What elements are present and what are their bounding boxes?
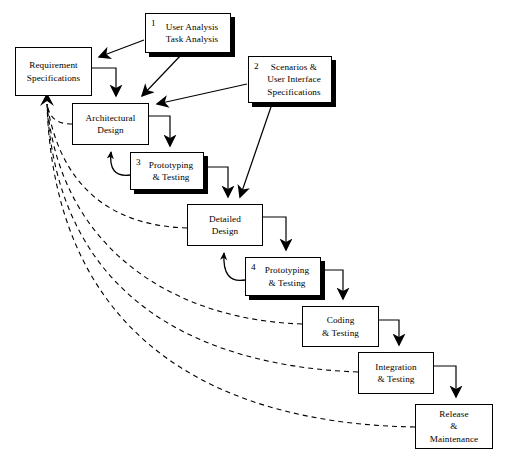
diagram-canvas: 1User Analysis Task AnalysisRequirement … xyxy=(0,0,505,462)
node-label-prototyping-testing-3: Prototyping & Testing xyxy=(137,159,198,184)
node-integration-testing[interactable]: Integration & Testing xyxy=(358,352,434,394)
node-prototyping-testing-3[interactable]: 3Prototyping & Testing xyxy=(130,152,204,190)
edge-user-analysis-to-architectural-design xyxy=(142,54,182,96)
node-label-release-maintenance: Release & Maintenance xyxy=(426,408,483,446)
node-number-scenarios-ui-specifications: 2 xyxy=(254,61,259,72)
edge-scenarios-to-architectural-design xyxy=(157,84,247,104)
node-label-user-analysis: User Analysis Task Analysis xyxy=(154,21,223,46)
edge-prototyping-4-to-coding-testing xyxy=(321,270,343,299)
node-detailed-design[interactable]: Detailed Design xyxy=(187,204,263,246)
edge-detailed-design-to-prototyping-4 xyxy=(263,217,286,250)
node-architectural-design[interactable]: Architectural Design xyxy=(72,103,149,145)
edge-requirements-to-architectural-design xyxy=(92,68,116,96)
node-label-coding-testing: Coding & Testing xyxy=(318,314,363,339)
edge-user-analysis-to-requirements xyxy=(99,40,144,57)
node-release-maintenance[interactable]: Release & Maintenance xyxy=(415,404,493,449)
node-label-detailed-design: Detailed Design xyxy=(205,213,245,238)
node-label-architectural-design: Architectural Design xyxy=(82,112,140,137)
node-requirement-specifications[interactable]: Requirement Specifications xyxy=(15,47,92,96)
edge-integration-testing-to-release-maintenance xyxy=(434,366,456,397)
edge-prototyping-3-feedback-to-architectural-design xyxy=(111,152,130,175)
node-label-scenarios-ui-specifications: Scenarios & User Interface Specification… xyxy=(255,61,325,99)
node-number-prototyping-testing-3: 3 xyxy=(136,157,141,168)
node-number-prototyping-testing-4: 4 xyxy=(251,262,256,273)
edge-prototyping-4-feedback-to-detailed-design xyxy=(224,253,245,280)
node-scenarios-ui-specifications[interactable]: 2Scenarios & User Interface Specificatio… xyxy=(248,56,332,103)
node-label-integration-testing: Integration & Testing xyxy=(371,361,420,386)
node-coding-testing[interactable]: Coding & Testing xyxy=(302,306,379,347)
dashed-feedback-architectural-design xyxy=(47,104,72,124)
edge-coding-testing-to-integration-testing xyxy=(379,320,399,345)
node-label-requirement-specifications: Requirement Specifications xyxy=(23,59,84,84)
node-user-analysis[interactable]: 1User Analysis Task Analysis xyxy=(145,13,231,53)
node-label-prototyping-testing-4: Prototyping & Testing xyxy=(253,264,314,289)
node-number-user-analysis: 1 xyxy=(151,18,156,29)
edge-prototyping-3-to-detailed-design xyxy=(204,167,228,197)
edge-scenarios-to-detailed-design xyxy=(240,104,272,197)
edge-architectural-design-to-prototyping-3 xyxy=(149,116,170,146)
node-prototyping-testing-4[interactable]: 4Prototyping & Testing xyxy=(245,257,321,296)
